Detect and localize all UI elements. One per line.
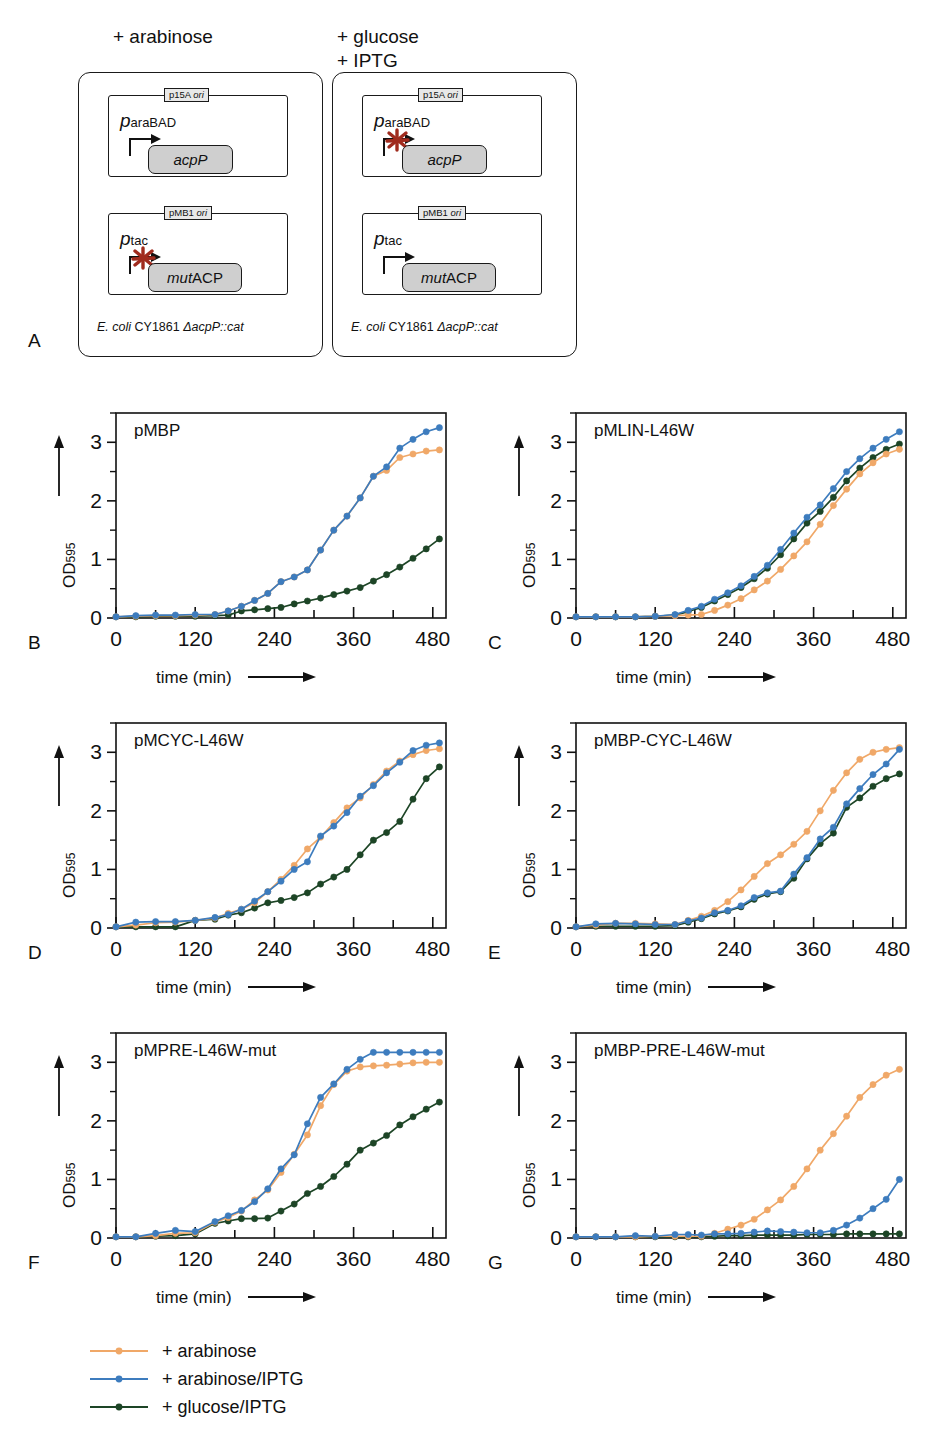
series-point xyxy=(278,1208,284,1214)
series-point xyxy=(384,1132,390,1138)
legend-item: + arabinose/IPTG xyxy=(88,1365,304,1393)
series-point xyxy=(698,1232,704,1238)
series-point xyxy=(844,1231,850,1237)
series-point xyxy=(397,564,403,570)
series-point xyxy=(397,454,403,460)
series-point xyxy=(844,1113,850,1119)
ori-italic: ori xyxy=(193,89,204,100)
series-point xyxy=(252,607,258,613)
x-tick-label: 360 xyxy=(796,1247,831,1270)
y-axis-label: OD595 xyxy=(60,1162,80,1208)
series-point xyxy=(423,1106,429,1112)
series-point xyxy=(738,1230,744,1236)
series-point xyxy=(698,915,704,921)
series-point xyxy=(778,888,784,894)
panel-label-a: A xyxy=(28,330,41,352)
series-point xyxy=(791,871,797,877)
y-tick-label: 0 xyxy=(550,1226,562,1249)
series-point xyxy=(436,1059,442,1065)
series-point xyxy=(857,465,863,471)
y-axis-label-main: OD xyxy=(60,873,79,899)
y-axis-label: OD595 xyxy=(60,852,80,898)
series-point xyxy=(265,606,271,612)
y-tick-label: 0 xyxy=(550,916,562,939)
series-point xyxy=(698,603,704,609)
series-point xyxy=(410,1114,416,1120)
y-tick-label: 2 xyxy=(90,489,102,512)
series-point xyxy=(672,921,678,927)
series-point xyxy=(357,1056,363,1062)
y-tick-label: 2 xyxy=(550,1109,562,1132)
cell-box-right: p15A ori paraBAD acpP pMB1 ori ptac xyxy=(332,72,577,357)
gene-label-italic: mut xyxy=(167,269,192,286)
series-point xyxy=(791,841,797,847)
series-point xyxy=(817,521,823,527)
series-point xyxy=(830,485,836,491)
panel-title-b: pMBP xyxy=(134,421,180,441)
series-point xyxy=(153,1230,159,1236)
y-tick-label: 3 xyxy=(550,1050,562,1073)
series-point xyxy=(370,1049,376,1055)
y-tick-label: 3 xyxy=(90,1050,102,1073)
x-axis-label: time (min) xyxy=(616,668,692,688)
strain-species: E. coli xyxy=(351,320,385,334)
series-point xyxy=(764,890,770,896)
series-point xyxy=(896,429,902,435)
series-point xyxy=(817,502,823,508)
strain-id: CY1861 xyxy=(385,320,437,334)
series-point xyxy=(613,614,619,620)
y-axis-label-main: OD xyxy=(520,563,539,589)
series-point xyxy=(804,828,810,834)
promoter-parabad-left: paraBAD xyxy=(120,110,176,132)
series-point xyxy=(410,451,416,457)
ori-tag-pmb1-left: pMB1 ori xyxy=(164,206,212,220)
series-point xyxy=(304,859,310,865)
series-point xyxy=(764,1228,770,1234)
strain-id: CY1861 xyxy=(131,320,183,334)
series-point xyxy=(410,1049,416,1055)
x-axis-label-group: time (min) xyxy=(616,668,778,688)
series-point xyxy=(344,810,350,816)
series-point xyxy=(291,601,297,607)
series-point xyxy=(331,874,337,880)
series-point xyxy=(791,553,797,559)
series-point xyxy=(331,823,337,829)
series-point xyxy=(725,899,731,905)
series-point xyxy=(685,1231,691,1237)
series-point xyxy=(613,920,619,926)
series-point xyxy=(883,1196,889,1202)
series-point xyxy=(410,796,416,802)
series-point xyxy=(857,1231,863,1237)
gene-box-acpp-right: acpP xyxy=(402,145,487,174)
y-axis-label-sub: 595 xyxy=(64,542,78,562)
series-point xyxy=(357,1147,363,1153)
series-line--glucose-iptg xyxy=(116,767,439,927)
series-point xyxy=(817,836,823,842)
series-point xyxy=(436,1049,442,1055)
gene-label-italic: acpP xyxy=(427,151,461,168)
series-point xyxy=(436,746,442,752)
series-point xyxy=(357,1064,363,1070)
gene-box-mutacp-right: mutACP xyxy=(402,263,496,292)
x-tick-label: 120 xyxy=(638,937,673,960)
series-point xyxy=(252,1216,258,1222)
series-point xyxy=(304,567,310,573)
y-axis-arrow xyxy=(52,1055,66,1121)
series-point xyxy=(751,1216,757,1222)
series-point xyxy=(751,573,757,579)
series-point xyxy=(712,607,718,613)
series-point xyxy=(883,746,889,752)
series-point xyxy=(436,425,442,431)
series-point xyxy=(817,808,823,814)
legend-label: + arabinose/IPTG xyxy=(162,1369,304,1390)
ori-italic: ori xyxy=(196,207,207,218)
series-point xyxy=(238,906,244,912)
series-point xyxy=(423,429,429,435)
series-point xyxy=(725,1231,731,1237)
x-axis-arrow xyxy=(708,1289,778,1307)
series-point xyxy=(791,1183,797,1189)
series-point xyxy=(304,1132,310,1138)
y-axis-label-main: OD xyxy=(520,1183,539,1209)
y-tick-label: 0 xyxy=(90,1226,102,1249)
series-point xyxy=(778,1197,784,1203)
